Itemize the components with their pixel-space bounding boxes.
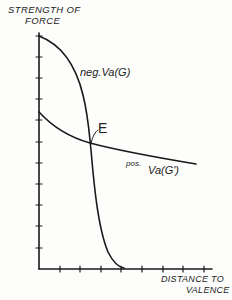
curve-neg-label: neg.Va(G) (80, 67, 130, 78)
curve-pos-label: Va(G') (148, 165, 179, 176)
equilibrium-leader-line (91, 130, 98, 143)
curve-pos-prefix: pos. (126, 160, 141, 168)
y-axis-label-line2: FORCE (25, 16, 60, 26)
curve-pos-va (39, 112, 196, 164)
diagram-canvas (0, 0, 232, 300)
force-diagram: STRENGTH OF FORCE neg.Va(G) E pos. Va(G'… (0, 0, 232, 300)
x-axis-label-line2: VALENCE (186, 286, 230, 295)
equilibrium-label: E (98, 121, 107, 135)
x-axis-label-line1: DISTANCE TO (161, 275, 224, 284)
y-axis-label-line1: STRENGTH OF (8, 5, 80, 15)
